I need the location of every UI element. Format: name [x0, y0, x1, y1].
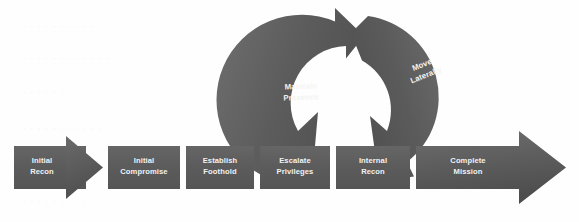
stage-complete-mission[interactable]: Complete Mission — [416, 131, 566, 204]
attack-lifecycle-diagram: · · · · · · · · · · · · · · · · · · · · … — [0, 0, 579, 222]
stage-label-escalate-privileges-line2: Privileges — [277, 167, 314, 176]
svg-text:· · · · · · · · · ·: · · · · · · · · · · — [22, 20, 95, 32]
stage-label-initial-compromise-line2: Compromise — [120, 167, 167, 176]
svg-text:· · · · · · · · ·: · · · · · · · · · — [22, 195, 87, 207]
cycle-label-maintain-presence-line1: Maintain — [284, 81, 317, 91]
diagram-canvas: · · · · · · · · · · · · · · · · · · · · … — [0, 0, 579, 222]
stage-label-initial-compromise-line1: Initial — [134, 156, 155, 165]
stage-chevron-initial-recon — [66, 136, 103, 199]
stage-label-initial-recon-line2: Recon — [30, 167, 54, 176]
stage-label-internal-recon-line1: Internal — [359, 156, 387, 165]
stage-label-initial-recon-line1: Initial — [32, 156, 53, 165]
stage-escalate-privileges[interactable]: Escalate Privileges — [260, 146, 330, 189]
stage-initial-recon[interactable]: Initial Recon — [14, 136, 103, 199]
stage-label-internal-recon-line2: Recon — [361, 167, 385, 176]
stage-label-establish-foothold-line2: Foothold — [203, 167, 237, 176]
svg-text:· · · · · · · ·: · · · · · · · · — [22, 86, 80, 98]
svg-text:· · · · · · · · · · · ·: · · · · · · · · · · · · — [22, 52, 110, 64]
stage-arrow-complete-mission — [416, 131, 566, 204]
svg-text:· · · · · · · · · · ·: · · · · · · · · · · · — [22, 122, 102, 134]
stage-label-establish-foothold-line1: Establish — [203, 156, 238, 165]
stage-initial-compromise[interactable]: Initial Compromise — [108, 146, 180, 189]
stage-label-complete-mission-line2: Mission — [454, 167, 483, 176]
stage-label-escalate-privileges-line1: Escalate — [279, 156, 311, 165]
stage-label-complete-mission-line1: Complete — [450, 156, 485, 165]
stage-internal-recon[interactable]: Internal Recon — [336, 146, 410, 189]
stage-establish-foothold[interactable]: Establish Foothold — [186, 146, 254, 189]
cycle-label-maintain-presence-line2: Presence — [283, 92, 319, 102]
